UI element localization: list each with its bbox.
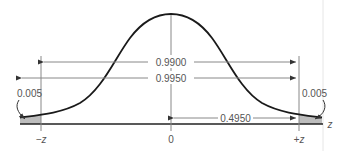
right-tail-label: 0.005 (302, 88, 327, 99)
zero-label: 0 (168, 134, 174, 145)
neg-z-label: −z (36, 134, 47, 145)
central-area-label: 0.9900 (156, 57, 187, 68)
half-area-label: 0.4950 (220, 113, 251, 124)
left-tail-label: 0.005 (17, 88, 42, 99)
cumulative-area-label: 0.9950 (156, 73, 187, 84)
pos-z-label: +z (294, 134, 305, 145)
normal-curve-diagram: 0.9900 0.9950 0.4950 0.005 0.005 −z 0 +z… (0, 0, 343, 151)
axis-z-label: z (327, 119, 333, 130)
